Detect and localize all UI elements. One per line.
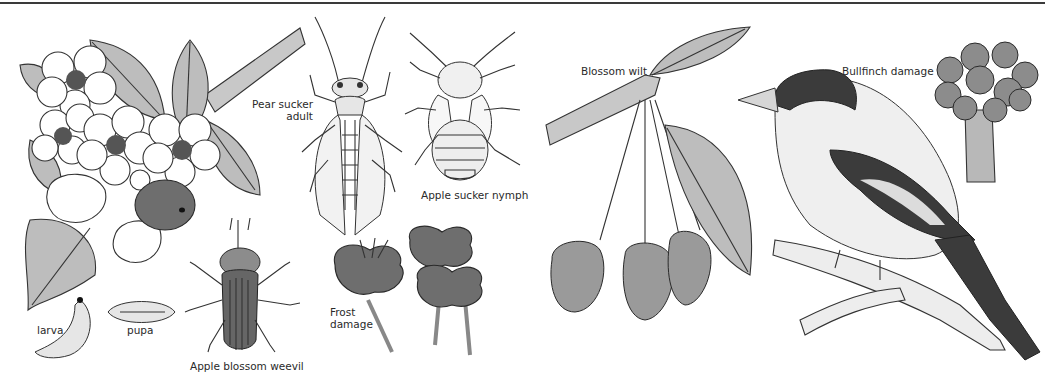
label-pear-sucker-line2: adult <box>250 110 313 122</box>
frost-damage-flowers-illustration <box>334 226 482 355</box>
damaged-bud-cluster-illustration <box>935 42 1038 182</box>
label-frost-line2: damage <box>330 318 373 330</box>
pear-sucker-adult-illustration <box>302 17 402 235</box>
label-pear-sucker-adult: Pear sucker adult <box>250 98 313 122</box>
label-apple-blossom-weevil: Apple blossom weevil <box>190 360 304 372</box>
label-blossom-wilt: Blossom wilt <box>581 65 647 77</box>
apple-sucker-nymph-illustration <box>405 32 520 180</box>
label-bullfinch-damage: Bullfinch damage <box>842 65 934 77</box>
label-apple-sucker-nymph: Apple sucker nymph <box>421 189 528 201</box>
label-frost-line1: Frost <box>330 306 373 318</box>
label-pear-sucker-line1: Pear sucker <box>250 98 313 110</box>
label-larva: larva <box>37 324 63 336</box>
label-frost-damage: Frost damage <box>330 306 373 330</box>
label-pupa: pupa <box>127 324 153 336</box>
apple-blossom-branch-illustration <box>20 28 305 358</box>
blossom-wilt-illustration <box>546 27 752 320</box>
